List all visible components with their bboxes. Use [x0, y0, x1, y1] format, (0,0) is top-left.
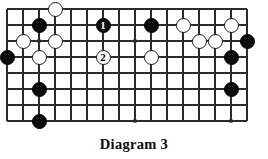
go-diagram-figure: 12 Diagram 3: [0, 0, 268, 159]
stone-move-number: 2: [97, 51, 110, 64]
star-point-marker: [229, 119, 232, 122]
stone-white[interactable]: [32, 50, 47, 65]
go-board[interactable]: 12: [0, 0, 268, 130]
stone-black[interactable]: [32, 82, 47, 97]
stone-black[interactable]: [144, 18, 159, 33]
stone-black[interactable]: [224, 50, 239, 65]
stone-white[interactable]: [176, 18, 191, 33]
stone-white[interactable]: [48, 2, 63, 17]
stone-black[interactable]: [240, 34, 255, 49]
stone-black[interactable]: [32, 18, 47, 33]
stone-black[interactable]: [224, 82, 239, 97]
star-point-marker: [133, 119, 136, 122]
stone-move-number: 1: [97, 19, 110, 32]
star-point-marker: [133, 39, 136, 42]
stone-white[interactable]: [208, 34, 223, 49]
stone-black[interactable]: [32, 114, 47, 129]
stone-black-move-1[interactable]: 1: [96, 18, 111, 33]
figure-caption: Diagram 3: [0, 130, 268, 159]
star-point-marker: [37, 39, 40, 42]
stone-white-move-2[interactable]: 2: [96, 50, 111, 65]
stone-black[interactable]: [0, 50, 15, 65]
stone-white[interactable]: [144, 50, 159, 65]
stone-white[interactable]: [192, 34, 207, 49]
stone-white[interactable]: [48, 34, 63, 49]
stone-white[interactable]: [224, 18, 239, 33]
stone-white[interactable]: [16, 34, 31, 49]
